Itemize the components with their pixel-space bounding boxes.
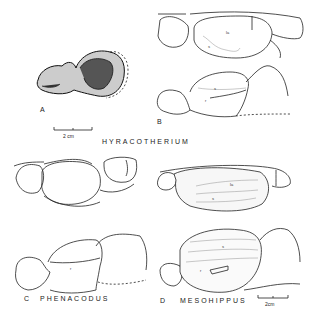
label-s-b-top: s [208,44,210,49]
panel-c-top [14,157,137,206]
label-s-b-bottom: s [214,86,216,91]
panel-label-b: B [157,118,162,125]
figure: A B 2 cm HYRACOTHERIUM la s s r r C PHEN… [0,0,311,324]
endocast-drawings [0,0,311,324]
label-la-d: la [230,182,233,187]
label-s-d-bottom: s [222,244,224,249]
panel-label-c: C [24,295,31,302]
panel-b-top [158,12,303,58]
scale-bar-label-top: 2 cm [63,133,74,139]
panel-d-bottom [160,228,300,292]
panel-b-bottom [157,66,290,117]
label-r-d: r [200,268,201,273]
panel-label-d: D [160,297,167,304]
label-r-c: r [70,266,71,271]
panel-a-endocast [37,51,128,98]
panel-label-a: A [40,106,45,113]
panel-c-bottom [16,234,147,293]
label-r-b: r [205,98,206,103]
label-la-b: la [226,30,229,35]
scale-bar-label-bottom: 2cm [265,301,274,307]
panel-d-top [157,165,290,211]
group-title-hyracotherium: HYRACOTHERIUM [102,138,190,145]
genus-phenacodus: PHENACODUS [40,295,109,302]
genus-mesohippus: MESOHIPPUS [180,297,247,304]
label-s-d-top: s [212,196,214,201]
